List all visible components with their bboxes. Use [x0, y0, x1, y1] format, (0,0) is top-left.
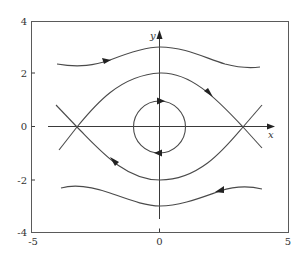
y-axis-arrow-icon — [157, 30, 163, 39]
y-tick-label: -2 — [17, 175, 27, 186]
y-tick-label: -4 — [17, 227, 27, 238]
saddle-left — [56, 105, 77, 150]
x-tick-label: 5 — [285, 236, 291, 247]
direction-arrow-icon — [215, 186, 224, 193]
y-tick-label: 0 — [21, 121, 27, 132]
phase-portrait: 4 2 0 -2 -4 -5 0 5 x y — [0, 0, 304, 262]
x-tick-label: 0 — [156, 236, 162, 247]
direction-arrow-icon — [154, 150, 162, 157]
y-ticks — [32, 73, 36, 180]
y-tick-label: 4 — [21, 16, 27, 27]
direction-arrow-icon — [157, 98, 165, 105]
y-axis — [157, 30, 163, 219]
x-tick-label: -5 — [28, 236, 38, 247]
direction-arrow-icon — [102, 58, 111, 64]
x-axis-label: x — [268, 129, 274, 140]
trajectory-lower-outer — [61, 186, 262, 206]
y-axis-label: y — [149, 30, 156, 41]
direction-arrow-icon — [204, 88, 213, 97]
trajectory-upper-outer — [57, 47, 260, 68]
y-tick-label: 2 — [21, 68, 27, 79]
